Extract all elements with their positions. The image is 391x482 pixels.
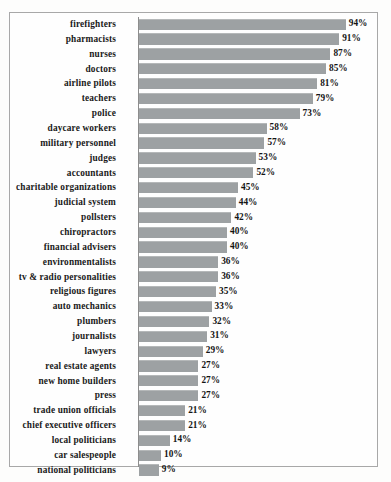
- category-label: plumbers: [77, 314, 116, 329]
- bar-value-label: 27%: [198, 374, 220, 387]
- bar-track: 36%: [139, 271, 377, 282]
- bar: [139, 316, 209, 327]
- bar: [139, 108, 300, 119]
- bar-track: 87%: [139, 48, 377, 59]
- bar: [139, 33, 339, 44]
- bar: [139, 241, 227, 252]
- bar-row: national politicians9%: [10, 463, 377, 478]
- bar: [139, 197, 236, 208]
- bar: [139, 286, 216, 297]
- bar-value-label: 32%: [209, 315, 231, 328]
- bar-value-label: 42%: [231, 211, 253, 224]
- bar-track: 10%: [139, 450, 377, 461]
- category-label: tv & radio personalities: [19, 270, 116, 285]
- bar-track: 36%: [139, 256, 377, 267]
- bar: [139, 152, 256, 163]
- bar-row: police73%: [10, 106, 377, 121]
- bar: [139, 48, 330, 59]
- bar-track: 52%: [139, 167, 377, 178]
- bar-row: daycare workers58%: [10, 121, 377, 136]
- bar: [139, 331, 207, 342]
- bar-row: local politicians14%: [10, 433, 377, 448]
- bar-row: firefighters94%: [10, 17, 377, 32]
- category-label: local politicians: [52, 433, 116, 448]
- bar: [139, 450, 161, 461]
- bar-track: 32%: [139, 316, 377, 327]
- category-label: daycare workers: [48, 121, 116, 136]
- bar-row: religious figures35%: [10, 284, 377, 299]
- bar: [139, 435, 170, 446]
- bar-row: military personnel57%: [10, 136, 377, 151]
- category-label: police: [92, 106, 116, 121]
- bar-track: 91%: [139, 33, 377, 44]
- bar-value-label: 85%: [326, 62, 348, 75]
- bar-track: 29%: [139, 346, 377, 357]
- bar-row: financial advisers40%: [10, 240, 377, 255]
- bar: [139, 464, 159, 475]
- bar-row: accountants52%: [10, 166, 377, 181]
- bar-value-label: 94%: [346, 17, 368, 30]
- chart-frame: firefighters94%pharmacists91%nurses87%do…: [9, 12, 378, 467]
- bar-row: chiropractors40%: [10, 225, 377, 240]
- bar-track: 58%: [139, 123, 377, 134]
- bar-row: teachers79%: [10, 91, 377, 106]
- bar-value-label: 57%: [264, 136, 286, 149]
- category-label: lawyers: [84, 344, 116, 359]
- bar-value-label: 27%: [198, 359, 220, 372]
- bar-value-label: 91%: [339, 32, 361, 45]
- bar-track: 85%: [139, 63, 377, 74]
- bar-value-label: 45%: [238, 181, 260, 194]
- category-label: new home builders: [39, 374, 116, 389]
- bar-row: plumbers32%: [10, 314, 377, 329]
- bar-row: press27%: [10, 388, 377, 403]
- bar-value-label: 81%: [317, 77, 339, 90]
- bar-track: 42%: [139, 212, 377, 223]
- category-label: auto mechanics: [53, 299, 116, 314]
- bar-track: 27%: [139, 390, 377, 401]
- bar-track: 9%: [139, 464, 377, 475]
- bar-track: 33%: [139, 301, 377, 312]
- bar: [139, 19, 346, 30]
- bar-value-label: 73%: [300, 107, 322, 120]
- bar-value-label: 79%: [313, 92, 335, 105]
- bar-row: nurses87%: [10, 47, 377, 62]
- bar: [139, 375, 198, 386]
- bar-value-label: 33%: [212, 300, 234, 313]
- category-label: judges: [89, 151, 116, 166]
- category-label: real estate agents: [45, 359, 116, 374]
- bar-value-label: 21%: [185, 404, 207, 417]
- bar: [139, 301, 212, 312]
- bar-value-label: 36%: [218, 255, 240, 268]
- bar: [139, 78, 317, 89]
- category-label: firefighters: [70, 17, 116, 32]
- bar-track: 40%: [139, 241, 377, 252]
- bar: [139, 390, 198, 401]
- bar-row: tv & radio personalities36%: [10, 270, 377, 285]
- bar: [139, 167, 253, 178]
- plot-area: firefighters94%pharmacists91%nurses87%do…: [10, 13, 377, 466]
- bar-track: 53%: [139, 152, 377, 163]
- bar-value-label: 53%: [256, 151, 278, 164]
- bar-value-label: 14%: [170, 433, 192, 446]
- bar-track: 44%: [139, 197, 377, 208]
- category-label: doctors: [86, 62, 116, 77]
- bar-value-label: 21%: [185, 419, 207, 432]
- category-label: accountants: [67, 166, 116, 181]
- bar-row: real estate agents27%: [10, 359, 377, 374]
- bar-track: 35%: [139, 286, 377, 297]
- bar: [139, 256, 218, 267]
- bar-track: 14%: [139, 435, 377, 446]
- bar: [139, 93, 313, 104]
- category-label: journalists: [72, 329, 116, 344]
- bar-row: trade union officials21%: [10, 403, 377, 418]
- category-label: pollsters: [81, 210, 116, 225]
- bar-value-label: 40%: [227, 225, 249, 238]
- category-label: financial advisers: [44, 240, 116, 255]
- category-label: charitable organizations: [16, 180, 116, 195]
- bar-track: 27%: [139, 375, 377, 386]
- category-label: military personnel: [40, 136, 116, 151]
- bar-value-label: 27%: [198, 389, 220, 402]
- category-label: teachers: [82, 91, 116, 106]
- bar: [139, 123, 267, 134]
- bar: [139, 227, 227, 238]
